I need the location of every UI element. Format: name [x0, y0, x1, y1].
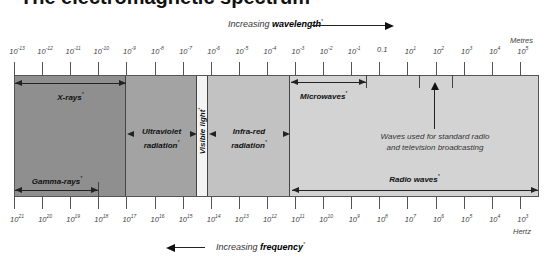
frequency-tick-label: 105: [461, 213, 472, 224]
frequency-tick-mark: [323, 197, 324, 209]
wavelength-tick-mark: [155, 62, 156, 75]
wavelength-tick-mark: [211, 62, 212, 75]
frequency-tick-label: 1019: [66, 213, 80, 224]
wavelength-tick-mark: [42, 62, 43, 75]
wavelength-tick-label: 105: [517, 45, 528, 56]
frequency-tick-mark: [267, 197, 268, 209]
radio-range-arrow: [292, 190, 538, 191]
frequency-tick-label: 106: [433, 213, 444, 224]
wavelength-tick-label: 102: [433, 45, 444, 56]
frequency-tick-label: 1018: [94, 213, 108, 224]
microwave-bound: [366, 75, 367, 88]
frequency-tick-label: 1017: [122, 213, 136, 224]
frequency-tick-label: 1016: [151, 213, 165, 224]
wavelength-caption: Increasing wavelength*: [228, 18, 323, 29]
wavelength-tick-label: 10-3: [292, 45, 305, 56]
wavelength-tick-label: 10-7: [179, 45, 192, 56]
wavelength-tick-label: 10-12: [37, 45, 53, 56]
wavelength-tick-mark: [520, 62, 521, 75]
frequency-tick-label: 1014: [207, 213, 221, 224]
wavelength-tick-label: 103: [461, 45, 472, 56]
frequency-unit: Hertz: [513, 227, 531, 236]
wavelength-tick-label: 104: [489, 45, 500, 56]
wavelength-tick-mark: [351, 62, 352, 75]
infrared-range-arrow: [209, 134, 290, 135]
wavelength-tick-mark: [464, 62, 465, 75]
wavelength-tick-mark: [183, 62, 184, 75]
frequency-tick-label: 1020: [38, 213, 52, 224]
frequency-tick-label: 108: [377, 213, 388, 224]
wavelength-tick-mark: [436, 62, 437, 75]
xray-range-arrow: [15, 83, 126, 84]
broadcast-bound-right: [452, 75, 453, 88]
microwave-range-arrow: [291, 82, 366, 83]
frequency-tick-mark: [436, 197, 437, 209]
wavelength-tick-mark: [239, 62, 240, 75]
frequency-tick-mark: [407, 197, 408, 209]
wavelength-tick-label: 10-6: [207, 45, 220, 56]
frequency-tick-mark: [155, 197, 156, 209]
frequency-arrow: [175, 247, 205, 248]
frequency-tick-mark: [211, 197, 212, 209]
wavelength-tick-mark: [126, 62, 127, 75]
frequency-tick-label: 1015: [179, 213, 193, 224]
frequency-caption: Increasing frequency*: [216, 241, 305, 252]
arrow-left-icon: [166, 244, 175, 252]
wavelength-tick-mark: [295, 62, 296, 75]
wavelength-tick-label: 0.1: [377, 45, 387, 54]
broadcast-bound-left: [419, 75, 420, 88]
broadcast-pointer-line: [434, 89, 435, 129]
frequency-tick-mark: [126, 197, 127, 209]
diagram-title: The electromagnetic spectrum: [20, 0, 310, 9]
frequency-tick-label: 1021: [10, 213, 24, 224]
wavelength-tick-label: 10-11: [66, 45, 81, 56]
wavelength-unit: Metres: [510, 36, 533, 45]
frequency-tick-label: 1011: [291, 213, 305, 224]
wavelength-tick-mark: [379, 62, 380, 75]
frequency-tick-mark: [239, 197, 240, 209]
gamma-label: Gamma-rays*: [15, 175, 99, 186]
visible-light-label: Visible light*: [197, 108, 208, 155]
frequency-tick-mark: [98, 197, 99, 209]
frequency-tick-mark: [379, 197, 380, 209]
wavelength-tick-label: 10-2: [320, 45, 333, 56]
wavelength-arrow: [312, 25, 386, 26]
gamma-range-arrow: [15, 190, 98, 191]
ultraviolet-range-arrow: [127, 134, 197, 135]
wavelength-tick-mark: [14, 62, 15, 75]
wavelength-tick-label: 10-10: [94, 45, 110, 56]
frequency-tick-label: 1012: [263, 213, 277, 224]
wavelength-tick-mark: [70, 62, 71, 75]
wavelength-tick-mark: [98, 62, 99, 75]
radio-label: Radio waves*: [291, 173, 538, 184]
arrow-right-icon: [385, 22, 394, 30]
wavelength-tick-label: 10-8: [151, 45, 164, 56]
frequency-tick-mark: [183, 197, 184, 209]
wavelength-tick-mark: [407, 62, 408, 75]
broadcast-note: Waves used for standard radio and televi…: [330, 131, 540, 153]
frequency-tick-label: 109: [349, 213, 360, 224]
wavelength-tick-label: 10-1: [348, 45, 361, 56]
wavelength-tick-mark: [267, 62, 268, 75]
frequency-tick-label: 1013: [235, 213, 249, 224]
microwave-label: Microwaves*: [300, 90, 347, 101]
frequency-tick-mark: [14, 197, 15, 209]
arrow-up-icon: [431, 82, 439, 90]
frequency-tick-mark: [520, 197, 521, 209]
xray-label: X-rays*: [15, 91, 126, 102]
frequency-tick-label: 1010: [319, 213, 333, 224]
frequency-tick-label: 107: [405, 213, 416, 224]
frequency-tick-mark: [464, 197, 465, 209]
frequency-tick-label: 103: [517, 213, 528, 224]
wavelength-tick-label: 10-4: [263, 45, 276, 56]
frequency-tick-mark: [42, 197, 43, 209]
wavelength-tick-label: 10-13: [9, 45, 25, 56]
frequency-tick-label: 104: [489, 213, 500, 224]
infrared-label: Infra-red radiation*: [208, 127, 290, 151]
wavelength-tick-label: 10-9: [123, 45, 136, 56]
wavelength-tick-label: 101: [405, 45, 416, 56]
frequency-tick-mark: [70, 197, 71, 209]
frequency-tick-mark: [295, 197, 296, 209]
wavelength-tick-label: 10-5: [235, 45, 248, 56]
wavelength-tick-mark: [492, 62, 493, 75]
